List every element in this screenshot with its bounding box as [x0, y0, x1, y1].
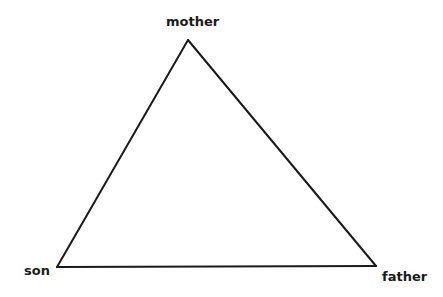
triangle-diagram [0, 0, 443, 297]
vertex-label-son: son [24, 264, 50, 277]
edge-mother-son [57, 40, 188, 267]
diagram-canvas: mother son father [0, 0, 443, 297]
vertex-label-father: father [382, 270, 427, 283]
edge-father-mother [188, 40, 376, 266]
edge-son-father [57, 266, 376, 267]
vertex-label-mother: mother [166, 15, 219, 28]
